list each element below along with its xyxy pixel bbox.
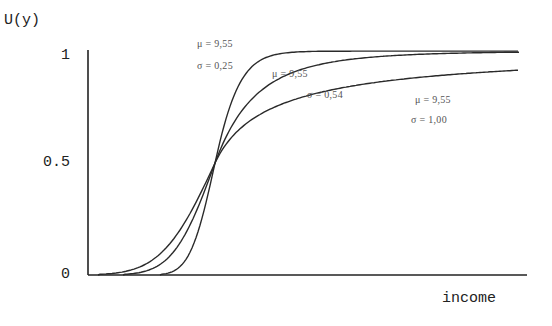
annotation-sigma-0-54: σ = 0,54 — [307, 89, 343, 100]
plot-area — [0, 0, 552, 326]
curve-sigma-0-25 — [160, 51, 518, 275]
annotation-mu-sigma-1-00: μ = 9,55 — [415, 94, 451, 105]
annotation-sigma-0-25: σ = 0,25 — [197, 60, 233, 71]
annotation-mu-sigma-0-25: μ = 9,55 — [197, 38, 233, 49]
curve-sigma-0-54 — [123, 52, 519, 275]
annotation-sigma-1-00: σ = 1,00 — [411, 114, 447, 125]
curve-sigma-1-00 — [98, 70, 518, 275]
annotation-mu-sigma-0-54: μ = 9,55 — [272, 68, 308, 79]
